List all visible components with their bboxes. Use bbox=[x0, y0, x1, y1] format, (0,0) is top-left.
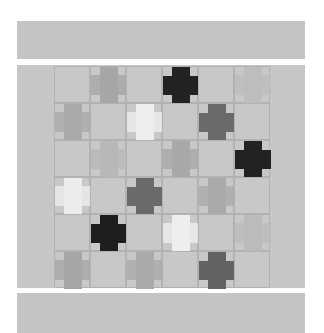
quilt-cell bbox=[198, 177, 234, 214]
tall-block-vertical bbox=[64, 252, 82, 289]
tall-block-vertical bbox=[100, 67, 118, 104]
quilt-cell bbox=[90, 103, 126, 140]
quilt-cell bbox=[198, 66, 234, 103]
quilt-panel bbox=[17, 65, 305, 288]
cross-block-vertical bbox=[172, 67, 190, 104]
quilt-cell bbox=[234, 66, 270, 103]
cross-block-vertical bbox=[244, 141, 262, 178]
quilt-cell bbox=[198, 214, 234, 251]
quilt-cell bbox=[234, 177, 270, 214]
tall-block-vertical bbox=[136, 104, 154, 141]
quilt-cell bbox=[234, 140, 270, 177]
tall-block-vertical bbox=[172, 215, 190, 252]
top-border-band bbox=[17, 21, 305, 59]
tall-block-vertical bbox=[244, 67, 262, 104]
quilt-cell bbox=[126, 214, 162, 251]
quilt-cell bbox=[162, 177, 198, 214]
quilt-cell bbox=[198, 251, 234, 288]
cross-block-vertical bbox=[100, 215, 118, 252]
quilt-cell bbox=[162, 66, 198, 103]
quilt-cell bbox=[126, 66, 162, 103]
quilt-cell bbox=[126, 140, 162, 177]
tall-block-vertical bbox=[100, 141, 118, 178]
quilt-cell bbox=[126, 103, 162, 140]
quilt-cell bbox=[126, 251, 162, 288]
cross-block-vertical bbox=[208, 104, 226, 141]
tall-block-vertical bbox=[64, 104, 82, 141]
quilt-cell bbox=[198, 103, 234, 140]
tall-block-vertical bbox=[172, 141, 190, 178]
quilt-cell bbox=[54, 251, 90, 288]
quilt-cell bbox=[162, 140, 198, 177]
quilt-cell bbox=[54, 214, 90, 251]
quilt-cell bbox=[90, 177, 126, 214]
bottom-border-band bbox=[17, 293, 305, 333]
quilt-cell bbox=[90, 251, 126, 288]
quilt-cell bbox=[54, 103, 90, 140]
quilt-cell bbox=[54, 140, 90, 177]
quilt-cell bbox=[162, 103, 198, 140]
quilt-cell bbox=[54, 66, 90, 103]
quilt-cell bbox=[162, 214, 198, 251]
tall-block-vertical bbox=[244, 215, 262, 252]
quilt-cell bbox=[90, 140, 126, 177]
quilt-cell bbox=[162, 251, 198, 288]
quilt-cell bbox=[198, 140, 234, 177]
quilt-cell bbox=[90, 66, 126, 103]
tall-block-vertical bbox=[208, 178, 226, 215]
quilt-cell bbox=[234, 251, 270, 288]
tall-block-vertical bbox=[64, 178, 82, 215]
tall-block-vertical bbox=[136, 252, 154, 289]
quilt-cell bbox=[54, 177, 90, 214]
quilt-cell bbox=[234, 103, 270, 140]
cross-block-vertical bbox=[136, 178, 154, 215]
cross-block-vertical bbox=[208, 252, 226, 289]
quilt-cell bbox=[234, 214, 270, 251]
quilt-cell bbox=[90, 214, 126, 251]
quilt-cell bbox=[126, 177, 162, 214]
